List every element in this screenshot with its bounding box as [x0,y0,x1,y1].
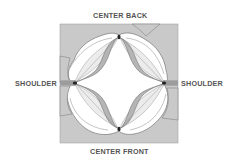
anchor-shoulder-right [162,81,166,84]
garment-pattern-diagram [0,0,231,164]
anchor-center-front [117,127,120,131]
anchor-center-back [117,35,120,39]
anchor-shoulder-left [73,81,77,84]
